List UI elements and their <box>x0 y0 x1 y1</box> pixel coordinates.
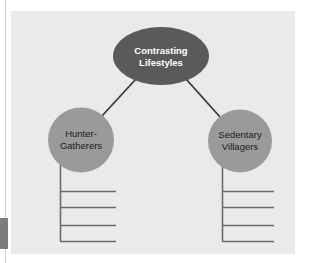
node-root-label-line1: Contrasting <box>134 45 188 56</box>
node-left-branch-label-line2: Gatherers <box>60 140 102 151</box>
node-root-label-line2: Lifestyles <box>139 57 183 68</box>
node-left-branch-label-line1: Hunter- <box>65 128 97 139</box>
node-right-branch-label-line2: Villagers <box>222 141 259 152</box>
connector-root-to-right <box>186 79 220 117</box>
node-root-shape[interactable] <box>113 27 209 85</box>
connector-root-to-left <box>101 79 136 117</box>
concept-map-diagram: Hunter- Gatherers Sedentary Villagers Co… <box>0 0 314 263</box>
node-right-branch-label-line1: Sedentary <box>218 129 262 140</box>
page-canvas: Hunter- Gatherers Sedentary Villagers Co… <box>0 0 314 263</box>
